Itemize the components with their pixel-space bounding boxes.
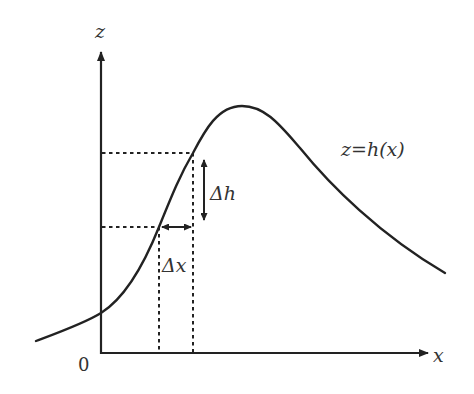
curve-label: z=h(x): [341, 140, 405, 159]
delta-h-label: Δh: [210, 184, 236, 203]
origin-label: 0: [78, 356, 89, 374]
z-axis-label: z: [95, 22, 105, 41]
diagram-canvas: [0, 0, 474, 394]
delta-x-label: Δx: [162, 256, 186, 275]
x-axis-label: x: [433, 346, 444, 365]
